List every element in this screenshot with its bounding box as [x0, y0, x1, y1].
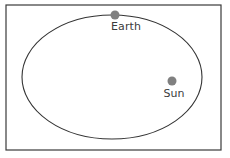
earth-marker-dot [111, 11, 120, 20]
diagram-canvas: Earth Sun [0, 0, 230, 158]
sun-label: Sun [163, 87, 184, 100]
orbital-diagram-panel: Earth Sun [0, 0, 230, 158]
earth-label: Earth [111, 20, 141, 33]
sun-marker-dot [168, 77, 177, 86]
